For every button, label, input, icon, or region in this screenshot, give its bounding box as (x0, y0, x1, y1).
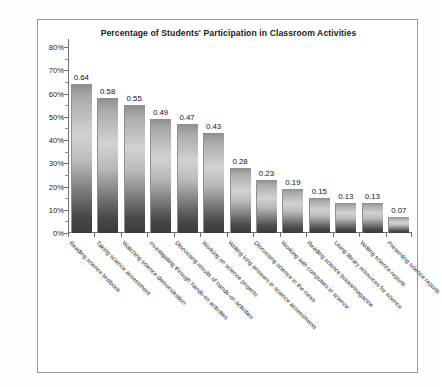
y-axis-minor-tick (65, 59, 68, 60)
bar-item: 0.49 (150, 47, 171, 233)
x-axis-tick-mark (411, 233, 412, 237)
x-axis-tick-mark (68, 233, 69, 237)
bar (71, 84, 92, 233)
x-axis-tick-mark (280, 233, 281, 237)
bar (203, 133, 224, 233)
y-axis-minor-tick (65, 82, 68, 83)
bar-item: 0.13 (362, 47, 383, 233)
y-axis-minor-tick (65, 128, 68, 129)
bar (124, 105, 145, 233)
bar (282, 189, 303, 233)
x-axis-tick-mark (359, 233, 360, 237)
x-axis-tick-mark (147, 233, 148, 237)
bar-item: 0.19 (282, 47, 303, 233)
bar-value-label: 0.47 (179, 113, 194, 122)
bar (309, 198, 330, 233)
x-axis-tick-mark (200, 233, 201, 237)
y-axis-tick-mark (64, 163, 68, 164)
y-axis-minor-tick (65, 221, 68, 222)
plot-area: 80%70%60%50%40%30%20%10%0% 0.640.580.550… (68, 47, 412, 233)
bar (177, 124, 198, 233)
chart-title: Percentage of Students' Participation in… (38, 28, 419, 38)
y-axis-tick-mark (64, 94, 68, 95)
x-axis-tick-mark (174, 233, 175, 237)
y-axis-tick-mark (64, 117, 68, 118)
x-axis-category-label: Taking science assessment (95, 239, 152, 296)
bar (230, 168, 251, 233)
bar-item: 0.64 (71, 47, 92, 233)
x-axis-category-label: Reading science textbook (68, 239, 122, 293)
bar-value-label: 0.15 (312, 187, 327, 196)
bar-item: 0.15 (309, 47, 330, 233)
bar-value-label: 0.07 (391, 206, 406, 215)
bar (150, 119, 171, 233)
x-axis-tick-mark (386, 233, 387, 237)
bar-item: 0.07 (388, 47, 409, 233)
bar (335, 203, 356, 233)
bar-value-label: 0.13 (365, 192, 380, 201)
x-axis-tick-mark (227, 233, 228, 237)
bar-item: 0.58 (97, 47, 118, 233)
bar-value-label: 0.49 (153, 108, 168, 117)
bar-item: 0.47 (177, 47, 198, 233)
x-axis-tick-mark (253, 233, 254, 237)
bar (256, 180, 277, 233)
y-axis-tick-mark (64, 70, 68, 71)
bar (97, 98, 118, 233)
bar-value-label: 0.43 (206, 122, 221, 131)
bar-value-label: 0.13 (338, 192, 353, 201)
bar (388, 217, 409, 233)
y-axis-tick-mark (64, 210, 68, 211)
bar-value-label: 0.23 (259, 169, 274, 178)
y-axis-minor-tick (65, 152, 68, 153)
x-axis-tick-mark (306, 233, 307, 237)
y-axis-minor-tick (65, 105, 68, 106)
x-axis-category-label: Presenting science reports (386, 239, 442, 295)
y-axis-line (68, 39, 69, 233)
bar-value-label: 0.64 (74, 73, 89, 82)
x-axis-category-label: Writing science reports (359, 239, 408, 288)
x-axis-category-label: Writing long answers in science assessme… (227, 239, 319, 331)
bar-value-label: 0.19 (285, 178, 300, 187)
chart-container: Percentage of Students' Participation in… (37, 19, 418, 373)
y-axis-tick-mark (64, 47, 68, 48)
x-axis-tick-mark (94, 233, 95, 237)
bar-item: 0.43 (203, 47, 224, 233)
x-axis-tick-mark (121, 233, 122, 237)
bar (362, 203, 383, 233)
bar-item: 0.28 (230, 47, 251, 233)
y-axis-minor-tick (65, 198, 68, 199)
bar-item: 0.55 (124, 47, 145, 233)
y-axis-tick-mark (64, 187, 68, 188)
bar-value-label: 0.28 (232, 157, 247, 166)
x-axis-tick-mark (333, 233, 334, 237)
y-axis-tick-mark (64, 140, 68, 141)
y-axis-minor-tick (65, 175, 68, 176)
bar-item: 0.23 (256, 47, 277, 233)
bar-value-label: 0.55 (127, 94, 142, 103)
bar-item: 0.13 (335, 47, 356, 233)
bar-value-label: 0.58 (100, 87, 115, 96)
